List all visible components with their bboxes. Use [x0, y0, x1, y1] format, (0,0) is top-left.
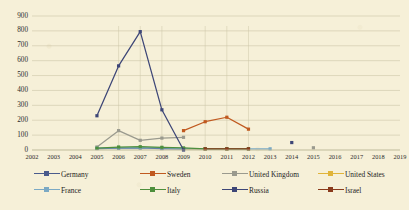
data-point-marker: [139, 30, 142, 33]
y-axis-tick-label: 800: [2, 26, 28, 34]
data-point-marker: [139, 145, 142, 148]
legend-item-russia[interactable]: Russia: [222, 182, 269, 198]
data-point-marker: [160, 146, 163, 149]
legend-label: France: [60, 186, 81, 195]
legend-swatch-icon: [140, 169, 166, 179]
x-axis-tick-label: 2018: [366, 153, 390, 161]
x-axis-tick-label: 2006: [107, 153, 131, 161]
y-axis-tick-label: 500: [2, 71, 28, 79]
data-point-marker: [247, 128, 250, 131]
data-point-marker: [117, 64, 120, 67]
legend-item-germany[interactable]: Germany: [34, 166, 89, 182]
x-axis-tick-label: 2010: [193, 153, 217, 161]
x-axis-tick-label: 2017: [345, 153, 369, 161]
legend-swatch-icon: [34, 169, 60, 179]
x-axis-tick-label: 2019: [388, 153, 409, 161]
x-axis-tick-label: 2011: [215, 153, 239, 161]
x-axis-tick-label: 2012: [236, 153, 260, 161]
legend-label: United Kingdom: [248, 170, 299, 179]
legend-label: Germany: [60, 170, 89, 179]
x-axis-tick-label: 2007: [128, 153, 152, 161]
data-point-marker: [290, 141, 293, 144]
x-axis-tick-label: 2003: [42, 153, 66, 161]
data-point-marker: [160, 108, 163, 111]
data-point-marker: [182, 136, 185, 139]
data-point-marker: [225, 116, 228, 119]
x-axis-tick-label: 2005: [85, 153, 109, 161]
legend-label: Israel: [344, 186, 361, 195]
data-point-marker: [117, 129, 120, 132]
legend-item-israel[interactable]: Israel: [318, 182, 361, 198]
x-axis-tick-label: 2008: [150, 153, 174, 161]
legend-swatch-icon: [140, 185, 166, 195]
x-axis-tick-label: 2013: [258, 153, 282, 161]
x-axis-tick-label: 2014: [280, 153, 304, 161]
legend-item-france[interactable]: France: [34, 182, 81, 198]
y-axis-tick-label: 200: [2, 116, 28, 124]
x-axis-tick-label: 2004: [63, 153, 87, 161]
x-axis-tick-label: 2002: [20, 153, 44, 161]
data-point-marker: [139, 139, 142, 142]
x-axis-tick-label: 2009: [172, 153, 196, 161]
series-line: [184, 117, 249, 130]
data-point-marker: [160, 136, 163, 139]
y-axis-tick-label: 100: [2, 131, 28, 139]
legend-label: Italy: [166, 186, 181, 195]
line-chart: 0100200300400500600700800900 20022003200…: [0, 0, 409, 210]
x-axis-tick-label: 2016: [323, 153, 347, 161]
legend-swatch-icon: [318, 185, 344, 195]
legend-swatch-icon: [222, 185, 248, 195]
data-point-marker: [312, 146, 315, 149]
legend-swatch-icon: [222, 169, 248, 179]
legend-label: Russia: [248, 186, 269, 195]
legend-label: United States: [344, 170, 385, 179]
legend-swatch-icon: [318, 169, 344, 179]
legend-item-united-kingdom[interactable]: United Kingdom: [222, 166, 299, 182]
legend-swatch-icon: [34, 185, 60, 195]
legend-item-united-states[interactable]: United States: [318, 166, 385, 182]
data-point-marker: [95, 147, 98, 150]
series-sweden: [182, 116, 250, 133]
data-point-marker: [182, 129, 185, 132]
chart-legend: GermanySwedenUnited KingdomUnited States…: [0, 166, 409, 208]
legend-label: Sweden: [166, 170, 190, 179]
y-axis-tick-label: 300: [2, 101, 28, 109]
data-point-marker: [95, 114, 98, 117]
y-axis-tick-label: 600: [2, 56, 28, 64]
data-point-marker: [117, 145, 120, 148]
legend-item-sweden[interactable]: Sweden: [140, 166, 190, 182]
y-axis-tick-label: 900: [2, 12, 28, 20]
legend-item-italy[interactable]: Italy: [140, 182, 181, 198]
x-axis-tick-label: 2015: [301, 153, 325, 161]
y-axis-tick-label: 700: [2, 41, 28, 49]
data-point-marker: [204, 120, 207, 123]
y-axis-tick-label: 400: [2, 86, 28, 94]
